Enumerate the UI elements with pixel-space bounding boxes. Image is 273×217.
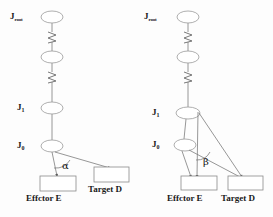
right-joint-root-ellipse [177,11,199,23]
right-link-j1-to-target [199,113,242,177]
left-joint-j0-ellipse [41,140,63,152]
right-joint-j0-ellipse [174,139,196,151]
right-spring-2 [184,72,192,83]
right-label-target: Target D [221,194,255,203]
left-target-box [94,167,129,182]
left-label-target: Target D [88,185,122,194]
left-spring-1 [48,32,56,43]
right-link-j0-to-effector [182,151,191,177]
left-joint-mid-ellipse [41,51,63,63]
right-joint-j1-ellipse [176,107,200,119]
right-spring-1 [184,32,192,43]
left-joint-root-ellipse [41,11,63,23]
left-panel-graphics [40,11,129,191]
right-link-j1-to-effector [197,112,198,177]
right-label-j0: J0 [152,140,159,150]
right-joint-mid-ellipse [177,51,199,63]
left-spring-2 [48,72,56,83]
diagram-canvas [0,0,273,217]
right-link-joint1-joint0 [184,119,186,139]
right-panel-graphics [174,11,263,190]
right-label-j1: J1 [152,108,159,118]
left-label-j-root: Jroot [10,12,23,22]
right-label-angle-beta: β [203,157,209,167]
right-target-box [228,176,263,190]
right-label-effector: Effctor E [167,194,203,203]
left-effector-box [40,176,76,191]
left-joint-j1-ellipse [41,102,63,114]
left-label-effector: Effctor E [26,194,62,203]
ik-diagram-figure: Jroot J1 J0 α Effctor E Target D Jroot J… [0,0,273,217]
left-link-j0-to-effector [52,152,57,176]
right-link-j0-to-target [189,150,240,177]
left-label-angle-alpha: α [62,161,69,171]
left-label-j1: J1 [17,103,24,113]
right-effector-box [181,176,217,190]
left-label-j0: J0 [17,141,24,151]
right-label-j-root: Jroot [144,12,157,22]
